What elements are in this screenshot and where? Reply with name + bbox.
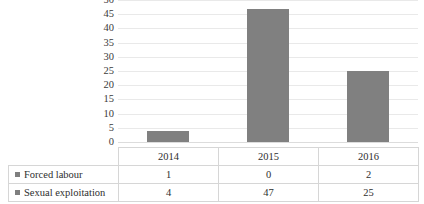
y-tick-label-35: 35 <box>104 38 115 48</box>
series-legend-cell: Sexual exploitation <box>9 184 119 202</box>
value-cell-2016: 2 <box>319 166 419 184</box>
y-tick-label-40: 40 <box>104 23 115 33</box>
table-row: Sexual exploitation44725 <box>9 184 419 202</box>
value-cell-2016: 25 <box>319 184 419 202</box>
bar-slot-2015 <box>218 0 318 142</box>
y-tick-label-25: 25 <box>104 66 115 76</box>
legend-swatch-icon <box>15 172 20 177</box>
value-cell-2015: 47 <box>219 184 319 202</box>
series-legend-cell: Forced labour <box>9 166 119 184</box>
bar-slot-2014 <box>118 0 218 142</box>
series-label: Forced labour <box>24 169 83 180</box>
plot-area <box>118 0 418 142</box>
column-header-2016: 2016 <box>319 148 419 166</box>
value-cell-2014: 1 <box>119 166 219 184</box>
bar-2015 <box>247 9 289 142</box>
plot-region: 50454035302520151050 <box>0 0 424 148</box>
y-axis-tick-labels: 50454035302520151050 <box>88 0 114 148</box>
value-cell-2014: 4 <box>119 184 219 202</box>
legend-swatch-icon <box>15 190 20 195</box>
y-tick-label-15: 15 <box>104 94 115 104</box>
column-header-2015: 2015 <box>219 148 319 166</box>
bar-slot-2016 <box>318 0 418 142</box>
y-tick-label-50: 50 <box>104 0 115 5</box>
y-tick-label-45: 45 <box>104 9 115 19</box>
data-table: 201420152016Forced labour102Sexual explo… <box>8 147 419 202</box>
y-tick-label-5: 5 <box>109 123 114 133</box>
gridline-0 <box>118 142 418 143</box>
table-header-row: 201420152016 <box>9 148 419 166</box>
y-tick-label-30: 30 <box>104 52 115 62</box>
column-header-2014: 2014 <box>119 148 219 166</box>
y-tick-label-20: 20 <box>104 80 115 90</box>
series-label: Sexual exploitation <box>24 187 105 198</box>
value-cell-2015: 0 <box>219 166 319 184</box>
bar-group <box>118 0 418 142</box>
bar-2016 <box>347 71 389 142</box>
bar-2014 <box>147 131 189 142</box>
data-table-body: 201420152016Forced labour102Sexual explo… <box>9 148 419 202</box>
table-corner-cell <box>9 148 119 166</box>
table-row: Forced labour102 <box>9 166 419 184</box>
y-tick-label-10: 10 <box>104 109 115 119</box>
bar-chart-figure: 50454035302520151050 201420152016Forced … <box>0 0 424 204</box>
y-tick-label-0: 0 <box>109 137 114 147</box>
